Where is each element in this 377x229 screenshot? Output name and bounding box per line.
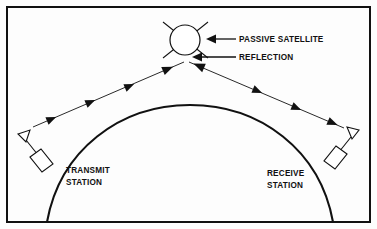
earth-horizon-arc xyxy=(47,105,333,222)
receive-station-label-line2: STATION xyxy=(267,181,303,190)
passive-satellite-leader xyxy=(206,35,236,44)
reflection-label: REFLECTION xyxy=(239,53,293,62)
receive-antenna-base xyxy=(324,146,347,169)
reflection-arrow-converging xyxy=(192,59,206,72)
transmit-antenna-base xyxy=(30,149,53,172)
receive-antenna-horn xyxy=(347,127,359,139)
receive-station-label-line1: RECEIVE xyxy=(267,169,305,178)
passive-satellite-icon xyxy=(163,22,208,58)
arrowhead-left-icon-reflection xyxy=(192,53,202,62)
uplink-arrow-3 xyxy=(123,80,135,91)
transmit-antenna-horn xyxy=(18,130,30,142)
transmit-antenna-icon xyxy=(18,130,53,172)
diagram-canvas: PASSIVE SATELLITE REFLECTION TRANSMIT ST… xyxy=(0,0,377,229)
passive-satellite-label: PASSIVE SATELLITE xyxy=(239,35,324,44)
satellite-circle xyxy=(170,25,200,55)
downlink-arrow-3 xyxy=(326,117,339,129)
receive-antenna-icon xyxy=(324,127,359,169)
diagram-figure: PASSIVE SATELLITE REFLECTION TRANSMIT ST… xyxy=(0,0,377,229)
downlink-beam xyxy=(189,62,344,128)
reflection-leader xyxy=(192,53,236,62)
arrowhead-left-icon-satellite xyxy=(206,35,216,44)
transmit-station-label-line2: STATION xyxy=(66,178,102,187)
uplink-arrow-4 xyxy=(161,63,175,75)
uplink-arrow-1 xyxy=(45,113,57,124)
downlink-arrow-1 xyxy=(251,85,263,96)
uplink-arrow-2 xyxy=(84,96,96,107)
transmit-station-label-line1: TRANSMIT xyxy=(66,166,110,175)
downlink-arrow-2 xyxy=(290,102,302,113)
